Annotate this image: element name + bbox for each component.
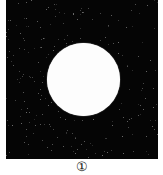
noise-speckle [146,136,147,137]
noise-speckle [24,40,25,41]
noise-speckle [88,8,89,9]
noise-speckle [53,129,54,130]
noise-speckle [9,51,10,52]
noise-speckle [13,55,14,56]
noise-speckle [66,133,67,134]
noise-speckle [20,33,21,34]
noise-speckle [26,26,27,27]
noise-speckle [84,141,85,142]
noise-speckle [104,151,105,152]
noise-speckle [41,39,42,40]
noise-speckle [66,43,67,44]
noise-speckle [50,126,51,127]
noise-speckle [8,125,9,126]
noise-speckle [41,95,42,96]
noise-speckle [19,82,20,83]
noise-speckle [19,48,20,49]
noise-speckle [24,18,25,19]
noise-speckle [28,144,29,145]
noise-speckle [47,147,48,148]
noise-speckle [11,61,12,62]
noise-speckle [107,152,108,153]
noise-speckle [150,60,151,61]
noise-speckle [26,129,27,130]
noise-speckle [35,125,36,126]
noise-speckle [13,65,14,66]
noise-speckle [23,38,24,39]
noise-speckle [40,47,41,48]
noise-speckle [143,109,144,110]
noise-speckle [127,66,128,67]
noise-speckle [77,149,78,150]
noise-speckle [40,124,41,125]
noise-speckle [148,154,149,155]
noise-speckle [155,120,156,121]
noise-speckle [123,153,124,154]
noise-speckle [38,93,39,94]
noise-speckle [153,107,154,108]
noise-speckle [154,28,155,29]
noise-speckle [121,103,122,104]
noise-speckle [9,152,10,153]
noise-speckle [16,25,17,26]
noise-speckle [154,0,155,1]
noise-speckle [139,13,140,14]
noise-speckle [46,57,47,58]
noise-speckle [118,53,119,54]
noise-speckle [34,48,35,49]
noise-speckle [53,50,54,51]
noise-speckle [92,19,93,20]
noise-speckle [126,27,127,28]
noise-speckle [54,46,55,47]
noise-speckle [88,157,89,158]
noise-speckle [58,111,59,112]
figure-panel-label: ① [0,159,163,175]
noise-speckle [157,134,158,135]
noise-speckle [51,102,52,103]
noise-speckle [140,105,141,106]
noise-speckle [12,125,13,126]
noise-speckle [142,88,143,89]
noise-speckle [8,29,9,30]
noise-speckle [102,155,103,156]
noise-speckle [145,98,146,99]
noise-speckle [156,104,157,105]
noise-speckle [80,14,81,15]
noise-speckle [48,54,49,55]
noise-speckle [55,16,56,17]
noise-speckle [28,26,29,27]
noise-speckle [67,35,68,36]
noise-speckle [152,126,153,127]
noise-speckle [42,82,43,83]
noise-speckle [72,133,73,134]
noise-speckle [37,21,38,22]
noise-speckle [135,4,136,5]
noise-speckle [40,27,41,28]
noise-speckle [143,83,144,84]
noise-speckle [142,42,143,43]
noise-speckle [82,120,83,121]
noise-speckle [48,7,49,8]
noise-speckle [34,119,35,120]
noise-speckle [129,119,130,120]
noise-speckle [31,0,32,1]
noise-speckle [75,138,76,139]
noise-speckle [80,10,81,11]
noise-speckle [74,120,75,121]
noise-speckle [34,81,35,82]
white-circle [47,43,120,116]
noise-speckle [24,49,25,50]
noise-speckle [54,4,55,5]
noise-speckle [138,104,139,105]
noise-speckle [140,114,141,115]
noise-speckle [106,138,107,139]
noise-speckle [90,143,91,144]
noise-speckle [64,39,65,40]
noise-speckle [108,26,109,27]
noise-speckle [105,138,106,139]
black-square-panel [6,0,158,159]
noise-speckle [83,12,84,13]
noise-speckle [44,38,45,39]
noise-speckle [7,57,8,58]
noise-speckle [19,71,20,72]
